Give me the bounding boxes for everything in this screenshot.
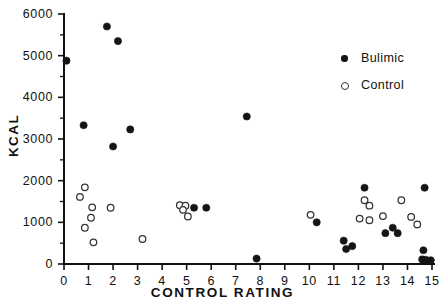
y-tick-label: 1000 [0, 215, 53, 229]
data-point [139, 236, 146, 243]
legend-label-bulimic: Bulimic [361, 51, 404, 65]
data-point [180, 207, 187, 214]
data-point [398, 197, 405, 204]
data-point [253, 255, 260, 262]
data-point [190, 204, 197, 211]
data-point [356, 215, 363, 222]
data-point [361, 184, 368, 191]
legend-label-control: Control [361, 78, 404, 92]
data-point [366, 202, 373, 209]
data-point [80, 122, 87, 129]
data-point [361, 197, 368, 204]
data-point [82, 224, 89, 231]
y-tick-label: 2000 [0, 174, 53, 188]
data-point [421, 184, 428, 191]
data-point [90, 239, 97, 246]
data-point [313, 219, 320, 226]
data-point [243, 113, 250, 120]
data-point [366, 217, 373, 224]
y-tick-label: 5000 [0, 49, 53, 63]
data-point [349, 242, 356, 249]
data-point [109, 143, 116, 150]
chart-legend: Bulimic Control [338, 48, 404, 102]
series-control-points [77, 184, 421, 246]
data-point [88, 214, 95, 221]
y-tick-label: 6000 [0, 7, 53, 21]
data-point [107, 204, 114, 211]
open-circle-icon [338, 78, 352, 92]
filled-circle-icon [338, 51, 352, 65]
plot-area: 0100020003000400050006000 01234567891011… [0, 0, 445, 306]
legend-item-control: Control [338, 75, 404, 95]
data-point [340, 237, 347, 244]
data-point [185, 213, 192, 220]
data-point [82, 184, 89, 191]
data-point [89, 204, 96, 211]
data-point [414, 221, 421, 228]
data-point [427, 257, 434, 264]
data-point [63, 57, 70, 64]
data-point [307, 212, 314, 219]
data-point [420, 247, 427, 254]
data-point [382, 230, 389, 237]
data-point [394, 230, 401, 237]
legend-item-bulimic: Bulimic [338, 48, 404, 68]
y-tick-label: 0 [0, 257, 53, 271]
scatter-plot-figure: 0100020003000400050006000 01234567891011… [0, 0, 445, 306]
data-point [127, 126, 134, 133]
data-point [380, 213, 387, 220]
data-point [203, 204, 210, 211]
chart-canvas [0, 0, 445, 306]
data-point [103, 23, 110, 30]
y-axis-title: KCAL [6, 101, 21, 171]
data-point [114, 37, 121, 44]
x-axis-title: CONTROL RATING [0, 285, 445, 300]
data-point [408, 214, 415, 221]
data-point [77, 194, 84, 201]
